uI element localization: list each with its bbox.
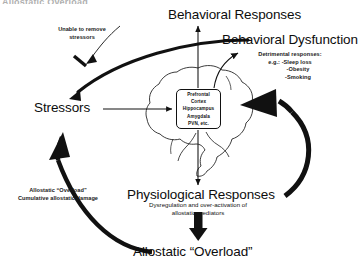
blocked-path-marker [74, 56, 86, 66]
brain-line-4: Amygdala [183, 113, 214, 120]
detrimental-line-2: -Obesity [234, 66, 346, 74]
brain-core-regions-box: Prefrontal Cortex Hippocampus Amygdala P… [176, 89, 221, 129]
annotation-unable-to-remove-stressors: Unable to remove stressors [38, 26, 126, 41]
brain-line-2: Cortex [183, 98, 214, 105]
unable-line-2: stressors [38, 34, 126, 42]
node-allostatic-overload: Allostatic “Overload” [133, 245, 252, 259]
annotation-cumulative-allostatic-damage: Allostatic “Overload” Cumulative allosta… [6, 187, 110, 202]
damage-line-2: Cumulative allostatic damage [6, 195, 110, 203]
physio-sub-line-2: allostatic mediators [122, 209, 274, 217]
brain-line-3: Hippocampus [183, 105, 214, 112]
detrimental-line-1: e.g.: -Sleep loss [234, 59, 346, 67]
node-stressors: Stressors [34, 101, 90, 115]
arrow-behavioral-dysfunction-to-stressors [69, 40, 248, 101]
damage-line-1: Allostatic “Overload” [6, 187, 110, 195]
node-behavioral-responses: Behavioral Responses [168, 8, 301, 22]
brain-line-5: PVN, etc. [183, 120, 214, 127]
unable-line-1: Unable to remove [38, 26, 126, 34]
brain-core-regions-text: Prefrontal Cortex Hippocampus Amygdala P… [183, 91, 214, 127]
detrimental-line-3: -Smoking [234, 74, 346, 82]
brain-line-1: Prefrontal [183, 91, 214, 98]
annotation-detrimental-responses: Detrimental responses: e.g.: -Sleep loss… [234, 51, 346, 82]
physio-sub-line-1: Dysregulation and over-activation of [122, 201, 274, 209]
arrow-allostatic-overload-to-brain [240, 89, 309, 196]
node-behavioral-dysfunction: Behavioral Dysfunction [222, 33, 358, 47]
detrimental-heading: Detrimental responses: [234, 51, 346, 59]
subtitle-physiological-responses: Dysregulation and over-activation of all… [122, 201, 274, 217]
allostatic-load-diagram: Allostatic Overload [0, 0, 358, 266]
